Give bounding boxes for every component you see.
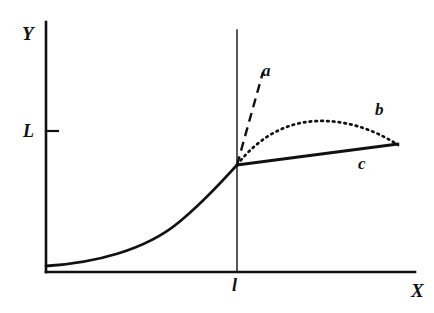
x-tick-label-l: l <box>232 276 237 294</box>
curve-label-b: b <box>375 101 384 118</box>
branch-b-dotted-curve <box>237 121 398 165</box>
y-tick-label-L: L <box>23 122 34 140</box>
growth-curve-figure: Y X L l a b c <box>0 0 434 313</box>
curve-label-a: a <box>262 62 271 79</box>
growth-curve <box>46 165 237 266</box>
x-axis-label: X <box>411 281 424 300</box>
y-axis-label: Y <box>22 24 34 43</box>
curve-label-c: c <box>358 155 366 172</box>
plot-canvas <box>0 0 434 313</box>
branch-c-solid-line <box>237 144 398 165</box>
